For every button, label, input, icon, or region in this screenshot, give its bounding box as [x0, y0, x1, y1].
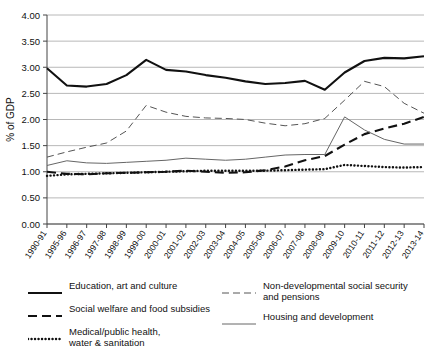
legend-column-right: Non-developmental social security and pe…	[222, 280, 427, 334]
y-axis-tick-label: 0.00	[22, 219, 41, 230]
legend-swatch-dashed-thin-icon	[222, 280, 256, 294]
legend-label: Housing and development	[263, 311, 373, 322]
legend-column-left: Education, art and culture Social welfar…	[28, 280, 223, 350]
legend-swatch-solid-thin-icon	[222, 311, 256, 325]
legend-swatch-dashed-thick-icon	[28, 303, 62, 317]
y-axis-tick-label: 2.50	[22, 88, 41, 99]
y-axis-tick-label: 1.00	[22, 166, 41, 177]
legend-swatch-dotted-icon	[28, 326, 62, 340]
chart-series-line	[47, 165, 424, 176]
legend-label: Education, art and culture	[69, 280, 177, 291]
legend-label: Social welfare and food subsidies	[69, 303, 210, 314]
chart-legend: Education, art and culture Social welfar…	[0, 278, 431, 350]
y-axis-title: % of GDP	[5, 97, 16, 142]
y-axis-tick-label: 4.00	[22, 10, 41, 21]
legend-item: Medical/public health, water & sanitatio…	[28, 326, 223, 348]
legend-label: Medical/public health, water & sanitatio…	[69, 326, 160, 348]
chart-figure: 0.000.501.001.502.002.503.003.504.00% of…	[0, 0, 431, 350]
y-axis-tick-label: 0.50	[22, 192, 41, 203]
legend-item: Education, art and culture	[28, 280, 223, 294]
legend-label: Non-developmental social security and pe…	[263, 280, 408, 302]
y-axis-tick-label: 3.00	[22, 62, 41, 73]
legend-item: Housing and development	[222, 311, 427, 325]
legend-item: Social welfare and food subsidies	[28, 303, 223, 317]
y-axis-tick-label: 3.50	[22, 36, 41, 47]
legend-swatch-solid-icon	[28, 280, 62, 294]
chart-series-line	[47, 56, 424, 89]
legend-item: Non-developmental social security and pe…	[222, 280, 427, 302]
y-axis-tick-label: 2.00	[22, 114, 41, 125]
chart-series-line	[47, 117, 424, 166]
y-axis-tick-label: 1.50	[22, 140, 41, 151]
